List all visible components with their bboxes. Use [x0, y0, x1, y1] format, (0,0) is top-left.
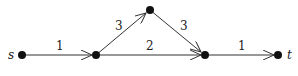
node-b	[146, 6, 154, 14]
directed-weighted-graph: 1 3 3 2 1 s t	[0, 0, 298, 76]
node-label-t: t	[287, 48, 292, 62]
node-a	[92, 51, 100, 59]
node-c	[201, 51, 209, 59]
node-s	[18, 51, 26, 59]
edge-b-c	[150, 10, 201, 52]
edge-weight-b-c: 3	[180, 19, 188, 33]
node-label-s: s	[8, 48, 14, 62]
edge-weight-s-a: 1	[56, 39, 64, 53]
edge-weight-c-t: 1	[238, 39, 246, 53]
edge-weight-a-c: 2	[146, 39, 154, 53]
edge-weight-a-b: 3	[115, 19, 123, 33]
node-t	[274, 51, 282, 59]
